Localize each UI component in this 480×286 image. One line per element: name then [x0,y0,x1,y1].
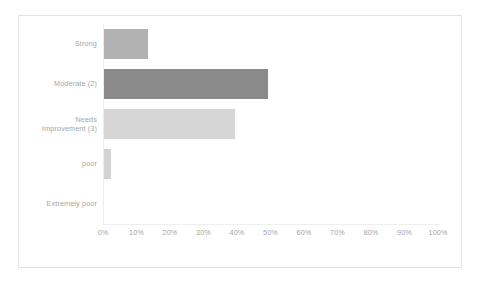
bar [104,109,235,139]
bar-row: Moderate (2) [103,64,440,104]
category-label: Extremely poor [19,184,97,224]
x-tick-label: 10% [129,228,144,237]
x-tick-label: 80% [364,228,379,237]
plot-area: Strong Moderate (2) Needs Improvement (3… [103,24,440,224]
x-tick-label: 30% [196,228,211,237]
category-label: Strong [19,24,97,64]
x-tick-label: 100% [429,228,448,237]
bar-row: Strong [103,24,440,64]
bar [104,29,148,59]
bar-row: Needs Improvement (3) [103,104,440,144]
bar [104,149,111,179]
x-axis-tick-labels: 0%10%20%30%40%50%60%70%80%90%100% [103,228,440,244]
category-label: Needs Improvement (3) [19,104,97,144]
chart-card: Strong Moderate (2) Needs Improvement (3… [18,15,462,268]
x-tick-label: 60% [297,228,312,237]
x-tick-label: 70% [330,228,345,237]
x-tick-label: 20% [163,228,178,237]
category-label: poor [19,144,97,184]
bar-row: poor [103,144,440,184]
x-tick-label: 40% [230,228,245,237]
x-tick-label: 0% [98,228,109,237]
bar-row: Extremely poor [103,184,440,224]
x-tick-label: 90% [397,228,412,237]
x-tick-label: 50% [263,228,278,237]
value-axis-baseline [103,224,440,225]
category-label: Moderate (2) [19,64,97,104]
bar [104,69,268,99]
